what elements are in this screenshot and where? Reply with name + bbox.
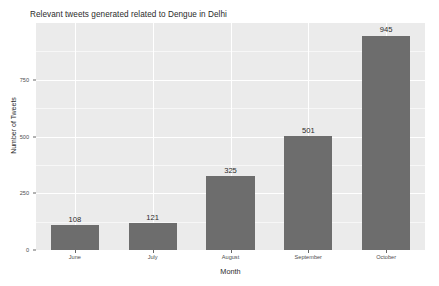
bar-august[interactable] [206, 176, 254, 250]
bar-september[interactable] [284, 136, 332, 250]
x-tick-label-october: October [376, 254, 396, 260]
y-tick-label: 0 [10, 247, 32, 253]
chart-figure: Relevant tweets generated related to Den… [0, 0, 439, 286]
x-tick-label-september: September [295, 254, 322, 260]
x-tick-mark [386, 250, 387, 253]
x-tick-mark [308, 250, 309, 253]
x-tick-mark [153, 250, 154, 253]
y-tick-mark [33, 250, 36, 251]
bar-value-label-july: 121 [146, 213, 159, 222]
y-tick-mark [33, 136, 36, 137]
x-tick-label-august: August [222, 254, 239, 260]
x-tick-mark [75, 250, 76, 253]
plot-panel [36, 23, 425, 250]
y-tick-mark [33, 193, 36, 194]
x-tick-mark [231, 250, 232, 253]
bar-value-label-october: 945 [380, 25, 393, 34]
x-tick-label-june: June [69, 254, 81, 260]
bar-value-label-september: 501 [302, 126, 315, 135]
bar-value-label-june: 108 [69, 215, 82, 224]
x-axis-title: Month [36, 267, 425, 276]
bar-july[interactable] [129, 223, 177, 250]
bar-june[interactable] [51, 225, 99, 250]
chart-title: Relevant tweets generated related to Den… [30, 10, 227, 19]
y-tick-label: 250 [10, 190, 32, 196]
y-axis-title: Number of Tweets [10, 91, 17, 161]
bar-october[interactable] [362, 36, 410, 251]
y-tick-mark [33, 79, 36, 80]
bar-value-label-august: 325 [224, 166, 237, 175]
y-tick-label: 500 [10, 134, 32, 140]
x-tick-label-july: July [148, 254, 158, 260]
y-tick-label: 750 [10, 77, 32, 83]
